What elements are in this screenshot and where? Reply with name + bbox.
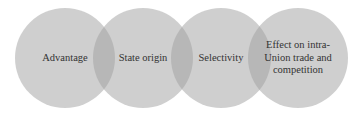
circle-label: Effect on intra-Union trade and competit… [258, 39, 338, 77]
circle-label: State origin [119, 52, 168, 65]
circle-label: Selectivity [199, 52, 244, 65]
criteria-venn-diagram: Advantage State origin Selectivity Effec… [0, 0, 362, 117]
circle-effect-on-trade: Effect on intra-Union trade and competit… [248, 8, 348, 108]
circle-label: Advantage [42, 52, 87, 65]
